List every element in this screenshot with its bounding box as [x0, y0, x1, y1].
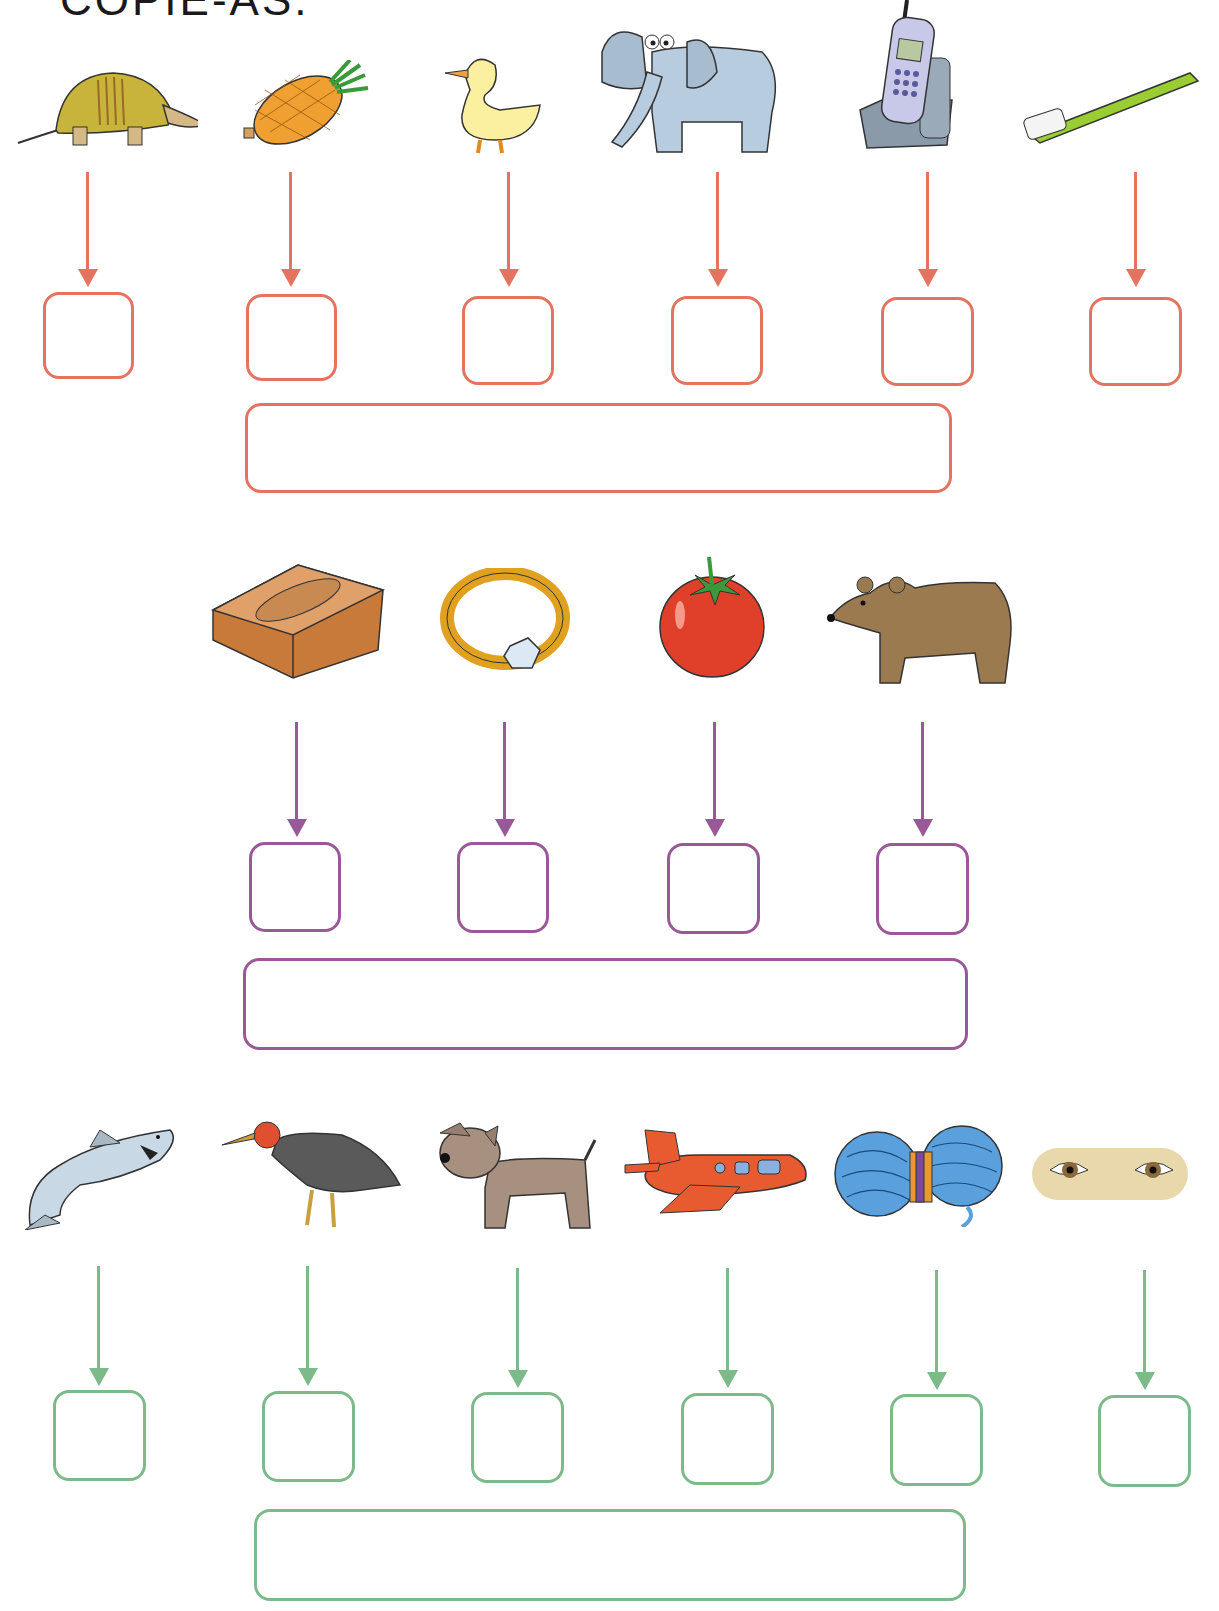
word-box[interactable]: [243, 958, 968, 1050]
arrow-down-icon: [287, 722, 307, 837]
letter-box[interactable]: [876, 843, 969, 935]
arrow-down-icon: [495, 722, 515, 837]
letter-box[interactable]: [462, 296, 554, 385]
arrow-down-icon: [918, 172, 938, 287]
duck-image: [440, 45, 545, 155]
cordless-phone-image: [852, 0, 962, 152]
arrow-down-icon: [1126, 172, 1146, 287]
turkey-bird-image: [222, 1115, 402, 1230]
arrow-down-icon: [298, 1266, 318, 1386]
letter-box[interactable]: [262, 1391, 355, 1482]
arrow-down-icon: [89, 1266, 109, 1386]
letter-box[interactable]: [53, 1390, 146, 1481]
letter-box[interactable]: [1098, 1395, 1191, 1487]
arrow-down-icon: [78, 172, 98, 287]
bear-image: [825, 563, 1015, 688]
letter-box[interactable]: [246, 294, 337, 381]
tomato-image: [655, 555, 770, 680]
letter-box[interactable]: [681, 1393, 774, 1485]
ring-image: [440, 568, 575, 683]
shark-image: [20, 1105, 175, 1230]
letter-box[interactable]: [1089, 297, 1182, 386]
arrow-down-icon: [499, 172, 519, 287]
elephant-image: [592, 12, 782, 157]
arrow-down-icon: [508, 1268, 528, 1388]
airplane-image: [620, 1125, 810, 1220]
eyes-image: [1030, 1140, 1190, 1205]
word-box[interactable]: [254, 1509, 966, 1601]
arrow-down-icon: [708, 172, 728, 287]
armadillo-image: [8, 55, 198, 150]
letter-box[interactable]: [881, 297, 974, 386]
arrow-down-icon: [927, 1270, 947, 1390]
pineapple-image: [240, 60, 370, 145]
letter-box[interactable]: [667, 843, 760, 934]
letter-box[interactable]: [890, 1394, 983, 1486]
letter-box[interactable]: [471, 1392, 564, 1483]
letter-box[interactable]: [671, 296, 763, 385]
letter-box[interactable]: [249, 842, 341, 932]
dog-image: [430, 1118, 600, 1233]
instruction-title: COPIE-AS.: [60, 0, 310, 22]
arrow-down-icon: [718, 1268, 738, 1388]
brick-image: [208, 560, 388, 680]
arrow-down-icon: [281, 172, 301, 287]
arrow-down-icon: [1135, 1270, 1155, 1390]
arrow-down-icon: [705, 722, 725, 837]
arrow-down-icon: [913, 722, 933, 837]
yarn-ball-image: [832, 1122, 1007, 1227]
letter-box[interactable]: [43, 292, 134, 379]
toothbrush-image: [1020, 65, 1200, 145]
word-box[interactable]: [245, 403, 952, 493]
letter-box[interactable]: [457, 842, 549, 933]
